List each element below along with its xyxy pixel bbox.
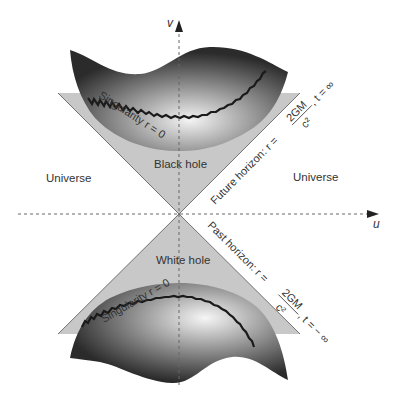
universe-left-label: Universe — [46, 172, 91, 184]
kruskal-diagram: v u Universe Universe Black hole White h… — [0, 0, 398, 401]
white-hole-label: White hole — [156, 254, 210, 266]
future-horizon-denominator: c² — [298, 115, 313, 130]
black-hole-label: Black hole — [154, 158, 207, 170]
v-axis-label: v — [167, 16, 174, 30]
past-horizon-suffix: , t = − ∞ — [296, 309, 332, 345]
universe-right-label: Universe — [293, 171, 338, 183]
u-axis-label: u — [373, 217, 380, 231]
future-horizon-suffix: , t = ∞ — [307, 78, 336, 107]
v-axis-arrow-icon — [175, 20, 183, 32]
